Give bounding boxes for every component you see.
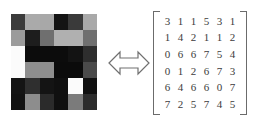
matrix-cell: 1 xyxy=(187,13,200,30)
matrix-cell: 6 xyxy=(174,46,187,63)
pixel-cell xyxy=(54,78,68,94)
pixel-cell xyxy=(25,46,39,62)
matrix-cell: 2 xyxy=(174,96,187,113)
matrix-cell: 6 xyxy=(200,80,213,97)
image-matrix-figure: 311531142112066754012673646607725745 xyxy=(0,0,255,127)
matrix-cell: 5 xyxy=(213,46,226,63)
pixel-cell xyxy=(11,94,25,110)
pixel-cell xyxy=(68,46,82,62)
matrix-cell: 4 xyxy=(226,46,239,63)
matrix-cell: 6 xyxy=(187,46,200,63)
pixel-cell xyxy=(25,14,39,30)
pixel-cell xyxy=(11,62,25,78)
pixel-cell xyxy=(68,78,82,94)
pixel-cell xyxy=(54,94,68,110)
matrix-cell: 5 xyxy=(226,96,239,113)
matrix-cell: 2 xyxy=(187,63,200,80)
matrix-cell: 5 xyxy=(187,96,200,113)
matrix-cell: 1 xyxy=(213,30,226,47)
pixel-cell xyxy=(83,78,97,94)
pixel-cell xyxy=(25,78,39,94)
matrix-cell: 1 xyxy=(174,63,187,80)
matrix-cell: 4 xyxy=(213,96,226,113)
pixel-cell xyxy=(68,94,82,110)
matrix-cell: 0 xyxy=(161,46,174,63)
pixel-cell xyxy=(11,14,25,30)
matrix-cell: 3 xyxy=(161,13,174,30)
pixel-cell xyxy=(25,94,39,110)
pixel-cell xyxy=(54,62,68,78)
pixel-cell xyxy=(83,30,97,46)
pixel-cell xyxy=(40,62,54,78)
pixel-cell xyxy=(11,78,25,94)
matrix-cell: 4 xyxy=(174,30,187,47)
pixel-image-grid xyxy=(11,14,97,110)
matrix-cell: 2 xyxy=(187,30,200,47)
matrix-grid: 311531142112066754012673646607725745 xyxy=(161,13,239,113)
matrix-cell: 5 xyxy=(200,13,213,30)
matrix-cell: 7 xyxy=(200,96,213,113)
matrix-cell: 1 xyxy=(226,13,239,30)
pixel-cell xyxy=(40,14,54,30)
pixel-cell xyxy=(25,30,39,46)
matrix-cell: 2 xyxy=(226,30,239,47)
matrix-cell: 3 xyxy=(226,63,239,80)
pixel-cell xyxy=(83,62,97,78)
pixel-cell xyxy=(83,14,97,30)
double-headed-arrow-icon xyxy=(107,48,151,78)
pixel-cell xyxy=(68,62,82,78)
matrix-cell: 1 xyxy=(200,30,213,47)
matrix-cell: 6 xyxy=(200,63,213,80)
pixel-cell xyxy=(54,30,68,46)
matrix-cell: 7 xyxy=(161,96,174,113)
matrix-cell: 6 xyxy=(161,80,174,97)
matrix-cell: 7 xyxy=(200,46,213,63)
matrix-right-bracket xyxy=(240,11,247,115)
matrix-left-bracket xyxy=(153,11,160,115)
matrix-cell: 0 xyxy=(161,63,174,80)
pixel-cell xyxy=(11,46,25,62)
pixel-cell xyxy=(54,46,68,62)
matrix-cell: 1 xyxy=(174,13,187,30)
matrix-cell: 7 xyxy=(226,80,239,97)
pixel-cell xyxy=(68,30,82,46)
matrix-cell: 1 xyxy=(161,30,174,47)
pixel-cell xyxy=(11,30,25,46)
pixel-cell xyxy=(40,94,54,110)
pixel-cell xyxy=(83,46,97,62)
pixel-cell xyxy=(83,94,97,110)
matrix-block: 311531142112066754012673646607725745 xyxy=(153,11,247,115)
pixel-cell xyxy=(40,46,54,62)
pixel-cell xyxy=(40,30,54,46)
pixel-cell xyxy=(40,78,54,94)
pixel-cell xyxy=(25,62,39,78)
pixel-cell xyxy=(54,14,68,30)
matrix-cell: 0 xyxy=(213,80,226,97)
matrix-cell: 4 xyxy=(174,80,187,97)
pixel-cell xyxy=(68,14,82,30)
matrix-cell: 6 xyxy=(187,80,200,97)
matrix-cell: 7 xyxy=(213,63,226,80)
matrix-cell: 3 xyxy=(213,13,226,30)
